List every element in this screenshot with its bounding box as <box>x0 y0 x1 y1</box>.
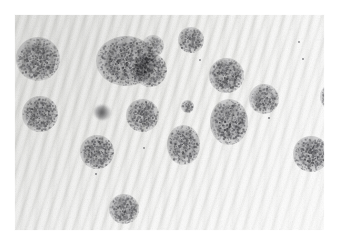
micrograph-plate <box>14 14 325 231</box>
film-grain-overlay <box>14 14 325 231</box>
image-frame <box>0 0 340 244</box>
